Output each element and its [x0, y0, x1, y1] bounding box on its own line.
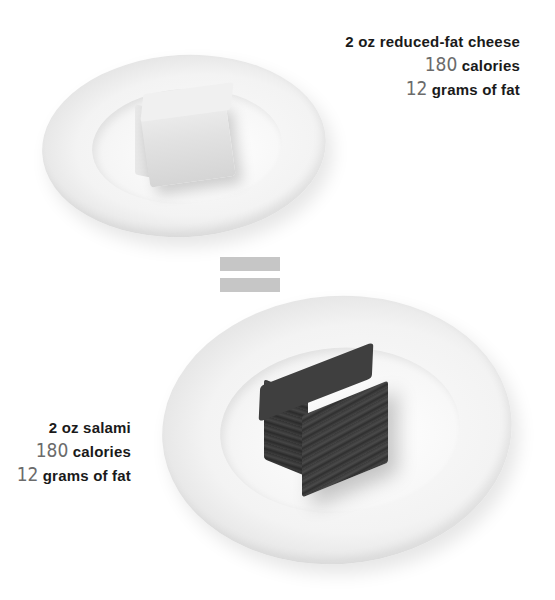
- equals-sign-top-bar: [220, 257, 280, 271]
- cheese-calories-value: 180: [425, 53, 458, 75]
- cheese-caption: 2 oz reduced-fat cheese 180 calories 12 …: [345, 31, 520, 101]
- salami-name: 2 oz salami: [0, 417, 131, 439]
- salami-fat-label: grams of fat: [38, 467, 131, 484]
- salami-block-image: [262, 358, 392, 492]
- cheese-fat-value: 12: [406, 77, 428, 99]
- cheese-name: 2 oz reduced-fat cheese: [345, 31, 520, 53]
- cheese-block-image: [135, 88, 235, 186]
- salami-calories-label: calories: [68, 443, 131, 460]
- cheese-calories: 180 calories: [345, 53, 520, 77]
- cheese-fat-label: grams of fat: [427, 81, 520, 98]
- cheese-calories-label: calories: [457, 57, 520, 74]
- salami-calories-value: 180: [36, 439, 69, 461]
- cheese-fat: 12 grams of fat: [345, 77, 520, 101]
- salami-caption: 2 oz salami 180 calories 12 grams of fat: [0, 417, 131, 487]
- salami-fat-value: 12: [17, 463, 39, 485]
- equals-sign-bottom-bar: [220, 278, 280, 292]
- salami-fat: 12 grams of fat: [0, 463, 131, 487]
- salami-calories: 180 calories: [0, 439, 131, 463]
